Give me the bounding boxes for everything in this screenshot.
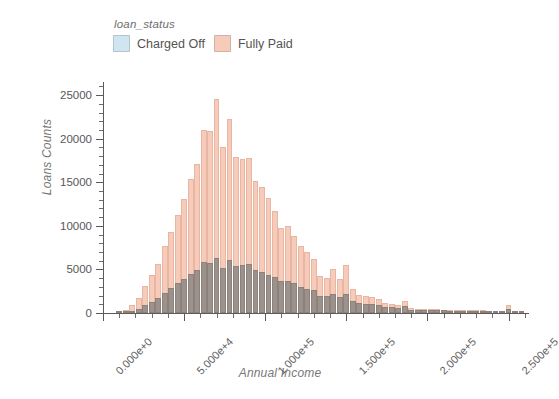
histogram-bar-charged-off [434,310,440,313]
x-tick-minor [135,314,136,318]
x-tick-label: 2.500e+5 [519,335,559,376]
x-tick-major [509,314,510,321]
histogram-bar-charged-off [220,268,226,313]
histogram-bar-charged-off [311,290,317,313]
plot-area [103,82,528,313]
histogram-bar-charged-off [278,281,284,313]
y-tick-label: 15000 [60,176,92,188]
x-tick-minor [330,314,331,318]
y-tick-label: 20000 [60,133,92,145]
x-tick-minor [119,314,120,318]
histogram-bar-charged-off [116,311,122,313]
x-tick-minor [379,314,380,318]
x-tick-minor [314,314,315,318]
histogram-bar-charged-off [480,311,486,313]
histogram-bar-charged-off [447,311,453,313]
x-tick-minor [168,314,169,318]
y-tick-major [96,182,103,183]
histogram-bar-charged-off [441,310,447,313]
legend-swatch-icon [214,35,231,52]
histogram-bar-charged-off [356,303,362,313]
y-tick-label: 5000 [66,263,92,275]
x-tick-minor [298,314,299,318]
legend-swatch-icon [113,35,130,52]
y-axis-ticks: 0500010000150002000025000 [0,82,103,314]
histogram-bar-charged-off [155,298,161,313]
histogram-bar-charged-off [162,293,168,313]
histogram-bar-charged-off [499,311,505,313]
histogram-bar-charged-off [298,287,304,313]
histogram-bar-charged-off [350,301,356,313]
legend-entry-label: Charged Off [137,37,205,51]
legend-entry[interactable]: Charged Off [113,35,205,52]
legend-entry-label: Fully Paid [238,37,293,51]
x-tick-minor [460,314,461,318]
histogram-bar-charged-off [473,311,479,313]
histogram-bar-charged-off [259,272,265,313]
histogram-bar-charged-off [454,311,460,313]
x-axis-tick-labels: 0.000e+05.000e+41.000e+51.500e+52.000e+5… [103,322,529,366]
histogram-bar-charged-off [486,311,492,313]
x-tick-major [103,314,104,321]
histogram-bar-charged-off [227,260,233,313]
x-tick-minor [395,314,396,318]
legend-title: loan_status [113,18,293,30]
histogram-bar-charged-off [214,258,220,313]
x-tick-minor [411,314,412,318]
histogram-bar-charged-off [460,311,466,313]
histogram-bar-charged-off [168,288,174,313]
y-tick-major [96,269,103,270]
x-tick-major [427,314,428,321]
legend-entry[interactable]: Fully Paid [214,35,293,52]
y-tick-label: 10000 [60,220,92,232]
y-tick-major [96,226,103,227]
histogram-figure: loan_status Charged OffFully Paid Loans … [0,0,559,399]
histogram-bar-charged-off [181,279,187,313]
x-tick-minor [152,314,153,318]
histogram-bar-charged-off [506,309,512,313]
x-tick-minor [249,314,250,318]
y-tick-label: 0 [86,307,92,319]
y-tick-major [96,139,103,140]
y-tick-major [96,313,103,314]
histogram-bar-charged-off [408,310,414,313]
histogram-bar-charged-off [421,310,427,313]
histogram-bar-charged-off [246,264,252,313]
histogram-bar-charged-off [175,283,181,313]
histogram-bar-charged-off [395,308,401,313]
x-tick-minor [492,314,493,318]
histogram-bar-charged-off [330,294,336,313]
x-tick-minor [200,314,201,318]
x-tick-minor [363,314,364,318]
histogram-bar-charged-off [136,309,142,313]
histogram-bar-charged-off [123,311,129,313]
y-tick-label: 25000 [60,89,92,101]
x-tick-label: 2.000e+5 [438,335,479,376]
x-tick-minor [217,314,218,318]
histogram-bar-charged-off [369,304,375,313]
histogram-bar-charged-off [188,274,194,313]
histogram-bar-charged-off [376,305,382,313]
y-tick-major [96,95,103,96]
x-tick-minor [525,314,526,318]
histogram-bar-charged-off [142,305,148,313]
histogram-bar-charged-off [324,296,330,313]
x-tick-minor [444,314,445,318]
legend-items: Charged OffFully Paid [113,35,293,52]
x-tick-major [346,314,347,321]
histogram-bar-charged-off [415,310,421,313]
histogram-bar-charged-off [253,270,259,313]
histogram-bar-charged-off [402,306,408,313]
histogram-bar-charged-off [467,311,473,313]
histogram-bar-charged-off [233,266,239,313]
histogram-bar-charged-off [272,277,278,313]
histogram-bar-charged-off [266,275,272,313]
x-tick-minor [233,314,234,318]
histogram-bar-charged-off [317,296,323,313]
histogram-bar-charged-off [291,283,297,313]
histogram-bar-charged-off [493,311,499,313]
histogram-bar-charged-off [428,310,434,313]
histogram-bar-charged-off [240,265,246,313]
x-tick-major [265,314,266,321]
histogram-bar-charged-off [304,289,310,313]
